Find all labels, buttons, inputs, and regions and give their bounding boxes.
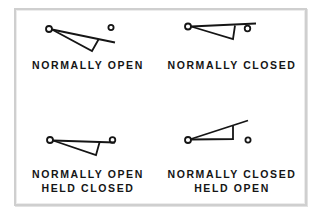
normally-open-switch-icon (46, 25, 115, 51)
contact-terminal-icon (245, 26, 251, 32)
fixed-terminal-icon (47, 137, 53, 143)
contact-terminal-icon (245, 137, 250, 142)
actuator-triangle-icon (52, 30, 99, 52)
label-line: NORMALLY CLOSED (158, 167, 306, 181)
contact-terminal-icon (108, 25, 113, 30)
label-line: HELD OPEN (158, 181, 306, 195)
label-line: NORMALLY OPEN (18, 58, 158, 72)
label-normally-open: NORMALLY OPEN (18, 58, 158, 72)
label-line: NORMALLY CLOSED (158, 58, 306, 72)
label-normally-closed-held-open: NORMALLY CLOSED HELD OPEN (158, 167, 306, 195)
fixed-terminal-icon (185, 24, 191, 30)
label-line: HELD CLOSED (18, 181, 158, 195)
label-normally-open-held-closed: NORMALLY OPEN HELD CLOSED (18, 167, 158, 195)
switch-blade-icon (191, 121, 248, 140)
switch-blade-icon (53, 141, 115, 143)
label-normally-closed: NORMALLY CLOSED (158, 58, 306, 72)
label-line: NORMALLY OPEN (18, 167, 158, 181)
fixed-terminal-icon (185, 137, 191, 143)
actuator-triangle-icon (191, 26, 235, 40)
normally-open-held-closed-switch-icon (47, 137, 115, 155)
fixed-terminal-icon (46, 26, 52, 32)
normally-closed-switch-icon (185, 24, 256, 40)
normally-closed-held-open-switch-icon (185, 121, 251, 144)
switch-blade-icon (52, 30, 115, 43)
